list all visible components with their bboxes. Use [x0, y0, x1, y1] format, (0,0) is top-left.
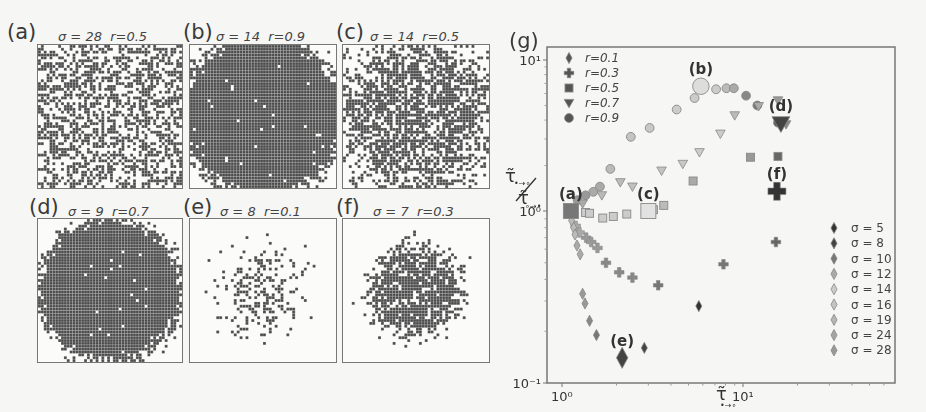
legend-marker: [566, 52, 572, 63]
highlighted-point: [563, 204, 578, 219]
legend-label: r=0.3: [585, 66, 619, 80]
highlighted-point: [641, 204, 656, 219]
svg-text:∘→•: ∘→•: [525, 202, 541, 211]
data-point: [729, 84, 738, 93]
data-point: [712, 85, 721, 94]
data-point: [628, 273, 638, 283]
legend-label: r=0.9: [585, 111, 619, 125]
data-point: [774, 152, 782, 160]
legend-label: σ = 19: [851, 313, 892, 327]
legend-marker: [831, 345, 837, 356]
y-tick-label: 10¹: [519, 53, 541, 68]
y-tick-label: 10⁻¹: [512, 376, 541, 391]
annotation-label: (d): [769, 97, 793, 115]
legend-label: σ = 12: [851, 267, 892, 281]
data-point: [696, 300, 702, 311]
data-point: [597, 192, 607, 200]
annotation-label: (f): [767, 165, 787, 183]
highlighted-point: [616, 347, 627, 368]
legend-label: σ = 16: [851, 298, 892, 312]
data-point: [730, 112, 740, 120]
data-point: [623, 210, 631, 218]
data-point: [660, 201, 668, 209]
legend-marker: [564, 68, 574, 78]
data-point: [771, 237, 781, 247]
legend-label: σ = 10: [851, 252, 892, 266]
data-point: [716, 130, 726, 138]
legend-label: σ = 28: [851, 343, 892, 357]
data-point: [616, 179, 626, 187]
data-point: [577, 249, 583, 260]
legend-marker: [831, 238, 837, 249]
legend-marker: [565, 84, 573, 92]
data-point: [645, 124, 654, 133]
data-point: [593, 243, 603, 253]
data-point: [695, 149, 705, 157]
data-point: [596, 182, 605, 191]
data-point: [672, 105, 681, 114]
y-axis-label: τ̃ •→∘ τ̃ ∘→•: [505, 165, 541, 211]
legend-marker: [831, 253, 837, 264]
data-point: [653, 280, 663, 290]
legend-marker: [831, 284, 837, 295]
legend-label: σ = 14: [851, 282, 892, 296]
legend-marker: [565, 114, 574, 123]
data-point: [628, 183, 638, 191]
legend-marker: [831, 222, 837, 233]
legend-marker: [831, 314, 837, 325]
legend-label: r=0.1: [585, 51, 619, 65]
legend-label: σ = 5: [851, 221, 884, 235]
scatter-plot-g: (g) 10⁰10¹10⁻¹10⁰10¹ (a)(b)(c)(d)(e)(f) …: [0, 0, 926, 412]
legend-label: r=0.5: [585, 81, 619, 95]
data-point: [599, 214, 607, 222]
highlighted-point: [693, 78, 710, 95]
annotation-label: (b): [689, 60, 713, 78]
data-point: [614, 268, 624, 278]
data-point: [641, 342, 647, 353]
annotation-label: (a): [559, 185, 583, 203]
legend-marker: [831, 330, 837, 341]
annotation-label: (c): [637, 185, 660, 203]
data-point: [587, 315, 593, 326]
data-point: [574, 240, 580, 251]
data-point: [601, 258, 611, 268]
data-point: [742, 91, 751, 100]
data-point: [609, 212, 617, 220]
data-point: [586, 209, 594, 217]
data-point: [719, 259, 729, 269]
data-point: [606, 165, 615, 174]
highlighted-point: [768, 182, 786, 200]
panel-g-label: (g): [509, 29, 539, 53]
annotation-label: (e): [610, 332, 634, 350]
svg-text:•→∘: •→∘: [720, 401, 736, 410]
data-point: [746, 153, 754, 161]
legend-r: r=0.1r=0.3r=0.5r=0.7r=0.9: [564, 51, 619, 125]
data-point: [690, 94, 699, 103]
data-point: [678, 160, 688, 168]
data-point: [626, 132, 635, 141]
legend-marker: [564, 99, 574, 107]
legend-marker: [831, 268, 837, 279]
legend-label: r=0.7: [585, 96, 619, 110]
legend-label: σ = 24: [851, 328, 892, 342]
legend-sigma: σ = 5σ = 8σ = 10σ = 12σ = 14σ = 16σ = 19…: [831, 221, 892, 357]
legend-label: σ = 8: [851, 236, 884, 250]
legend-marker: [831, 299, 837, 310]
data-point: [593, 329, 599, 340]
x-tick-label: 10⁰: [551, 389, 573, 404]
data-point: [689, 177, 697, 185]
data-point: [657, 167, 667, 175]
